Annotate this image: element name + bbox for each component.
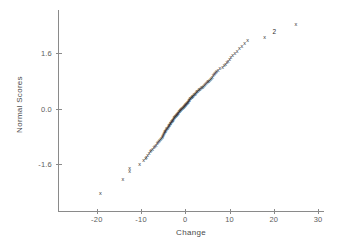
data-point-marker: x bbox=[194, 91, 197, 97]
data-point-marker: x bbox=[208, 78, 211, 84]
data-point-marker: x bbox=[212, 74, 215, 80]
data-point-marker: x bbox=[163, 131, 166, 137]
data-point-marker: x bbox=[153, 144, 156, 150]
data-point-marker: x bbox=[191, 95, 194, 101]
data-point-marker: x bbox=[184, 103, 187, 109]
data-point-marker: x bbox=[241, 44, 244, 50]
y-tick-mark bbox=[56, 53, 62, 54]
x-tick-label: -10 bbox=[135, 215, 146, 224]
y-tick-label: 1.6 bbox=[20, 49, 52, 58]
data-point-marker: x bbox=[178, 109, 181, 115]
data-point-marker: x bbox=[185, 101, 188, 107]
data-point-marker: x bbox=[238, 46, 241, 52]
x-tick-mark bbox=[97, 209, 98, 214]
data-point-marker: x bbox=[195, 90, 198, 96]
data-point-marker: x bbox=[214, 72, 217, 78]
data-point-marker: x bbox=[246, 38, 249, 44]
data-point-marker: x bbox=[221, 65, 224, 71]
data-point-marker: x bbox=[182, 105, 185, 111]
x-tick-mark bbox=[230, 209, 231, 214]
data-point-marker: x bbox=[183, 104, 186, 110]
data-point-marker: x bbox=[189, 97, 192, 103]
data-point-marker: x bbox=[170, 119, 173, 125]
y-axis-title: Normal Scores bbox=[15, 50, 24, 160]
data-point-marker: x bbox=[188, 98, 191, 104]
data-point-marker: x bbox=[99, 191, 102, 197]
data-point-marker: x bbox=[172, 118, 175, 124]
data-point-marker: x bbox=[236, 49, 239, 55]
y-axis-line bbox=[58, 10, 59, 211]
data-point-marker: x bbox=[167, 125, 170, 131]
x-tick-label: 10 bbox=[225, 215, 234, 224]
data-point-marker: x bbox=[172, 116, 175, 122]
data-point-marker: x bbox=[179, 108, 182, 114]
data-point-marker: x bbox=[214, 70, 217, 76]
data-point-marker: x bbox=[201, 85, 204, 91]
data-point-marker: x bbox=[168, 123, 171, 129]
data-point-marker: x bbox=[173, 115, 176, 121]
data-point-marker: x bbox=[150, 148, 153, 154]
x-tick-mark bbox=[318, 209, 319, 214]
data-point-marker: x bbox=[213, 73, 216, 79]
data-point-marker: x bbox=[207, 80, 210, 86]
data-point-marker: x bbox=[153, 145, 156, 151]
data-point-marker: x bbox=[167, 124, 170, 130]
data-point-marker: x bbox=[146, 153, 149, 159]
x-tick-label: -20 bbox=[91, 215, 102, 224]
data-point-marker: x bbox=[193, 92, 196, 98]
data-point-marker: x bbox=[197, 88, 200, 94]
data-point-marker: x bbox=[188, 97, 191, 103]
data-point-marker: x bbox=[196, 89, 199, 95]
data-point-marker: x bbox=[205, 81, 208, 87]
data-point-marker: x bbox=[122, 177, 125, 183]
data-point-marker: x bbox=[183, 104, 186, 110]
data-point-marker: x bbox=[169, 121, 172, 127]
data-point-marker: x bbox=[192, 93, 195, 99]
data-point-marker: x bbox=[142, 159, 145, 165]
x-axis-line bbox=[58, 211, 324, 212]
x-tick-label: 30 bbox=[314, 215, 323, 224]
data-point-marker: x bbox=[156, 142, 159, 148]
data-point-marker: x bbox=[263, 35, 266, 41]
data-point-marker: x bbox=[187, 98, 190, 104]
data-point-marker: x bbox=[176, 111, 179, 117]
data-point-marker: x bbox=[165, 127, 168, 133]
data-point-marker: x bbox=[191, 94, 194, 100]
data-point-marker: x bbox=[186, 101, 189, 107]
data-point-marker: x bbox=[164, 130, 167, 136]
data-point-marker: x bbox=[223, 64, 226, 70]
data-point-marker: x bbox=[218, 66, 221, 72]
data-point-marker: x bbox=[233, 51, 236, 57]
x-tick-mark bbox=[141, 209, 142, 214]
data-point-marker: x bbox=[148, 151, 151, 157]
data-point-marker: x bbox=[162, 133, 165, 139]
data-point-marker: x bbox=[173, 116, 176, 122]
data-point-marker: x bbox=[179, 108, 182, 114]
y-tick-label: -1.6 bbox=[20, 160, 52, 169]
data-point-marker: x bbox=[128, 166, 131, 172]
data-point-marker: x bbox=[161, 135, 164, 141]
data-point-marker: x bbox=[128, 169, 131, 175]
data-point-marker: x bbox=[177, 111, 180, 117]
data-point-marker: x bbox=[175, 113, 178, 119]
data-point-marker: x bbox=[186, 100, 189, 106]
data-point-marker: x bbox=[178, 109, 181, 115]
data-point-marker: x bbox=[231, 53, 234, 59]
data-point-marker: x bbox=[168, 124, 171, 130]
data-point-marker: x bbox=[199, 86, 202, 92]
data-point-marker: x bbox=[200, 85, 203, 91]
data-point-marker: x bbox=[138, 162, 141, 168]
data-point-marker: x bbox=[180, 106, 183, 112]
data-point-marker: x bbox=[157, 139, 160, 145]
data-point-marker: x bbox=[176, 112, 179, 118]
data-point-marker: x bbox=[159, 137, 162, 143]
data-point-marker: x bbox=[165, 126, 168, 132]
data-point-marker: x bbox=[199, 87, 202, 93]
data-point-marker: x bbox=[243, 41, 246, 47]
data-point-marker: x bbox=[187, 99, 190, 105]
data-point-marker: x bbox=[228, 57, 231, 63]
data-point-marker: x bbox=[172, 117, 175, 123]
data-point-marker: x bbox=[210, 76, 213, 82]
x-tick-mark bbox=[274, 209, 275, 214]
data-point-marker: x bbox=[227, 59, 230, 65]
